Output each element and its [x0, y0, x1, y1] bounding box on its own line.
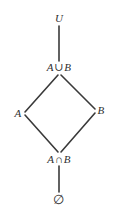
intersection-node: A∩B: [47, 154, 70, 165]
intersection-node-operand-right: B: [64, 153, 71, 165]
set-b-node: B: [97, 105, 104, 116]
set-b-node-label: B: [97, 104, 104, 116]
edge-set-a-intersection: [25, 115, 58, 152]
set-a-node-label: A: [14, 107, 21, 119]
edge-set-b-intersection: [61, 113, 95, 152]
intersection-node-operand-left: A: [47, 153, 54, 165]
union-node-operand-right: B: [64, 61, 71, 73]
edge-union-set-b: [61, 75, 95, 109]
union-node: A∪B: [47, 62, 72, 73]
lattice-diagram: U A∪B A B A∩B ∅: [0, 0, 118, 223]
union-operator-icon: ∪: [54, 61, 65, 73]
universe-node: U: [55, 13, 63, 24]
intersection-operator-icon: ∩: [54, 153, 63, 165]
set-a-node: A: [14, 108, 21, 119]
emptyset-node: ∅: [53, 194, 64, 206]
union-node-operand-left: A: [47, 61, 54, 73]
edge-union-set-a: [25, 75, 58, 112]
universe-node-label: U: [55, 12, 63, 24]
emptyset-icon: ∅: [53, 192, 64, 207]
